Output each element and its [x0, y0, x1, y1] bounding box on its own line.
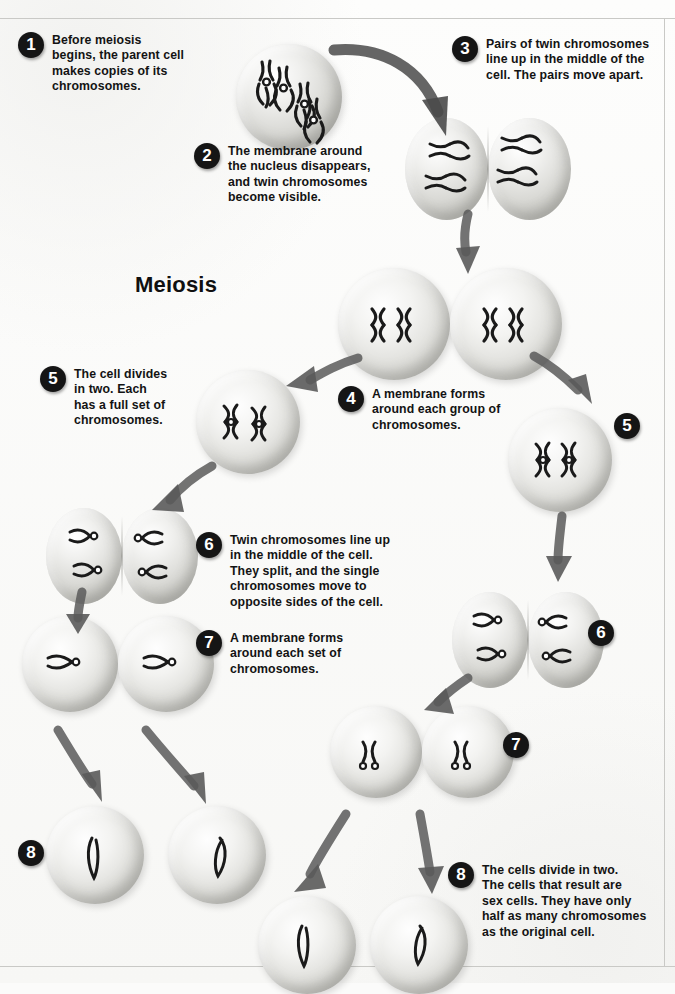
- page-rule-top: [0, 18, 675, 19]
- step-caption-5: The cell divides in two. Each has a full…: [74, 367, 204, 429]
- chromosome-group-stage6-left: [66, 522, 184, 592]
- stage-marker-6-right: 6: [588, 620, 614, 646]
- flow-arrow-5to6-left: [150, 462, 220, 520]
- chromosome-group-stage4-left: [368, 305, 424, 345]
- chromosome-stage8-d: [404, 924, 434, 970]
- stage-marker-8-left: 8: [18, 840, 44, 866]
- chromosome-group-stage4-right: [480, 305, 536, 345]
- step-badge-7: 7: [196, 630, 222, 656]
- step-badge-5: 5: [40, 366, 66, 392]
- chromosome-group-stage5-left: [220, 400, 278, 444]
- step-badge-2: 2: [194, 143, 220, 169]
- step-caption-6: Twin chromosomes line up in the middle o…: [230, 533, 420, 610]
- step-caption-3: Pairs of twin chromosomes line up in the…: [486, 37, 671, 83]
- step-badge-3: 3: [452, 36, 478, 62]
- chromosome-group-stage7-left-b: [140, 650, 194, 684]
- flow-arrow-5to6-right: [540, 514, 586, 586]
- flow-arrow-7to8-a: [52, 726, 112, 808]
- chromosome-group-stage7-right-a: [358, 738, 398, 772]
- step-caption-8: The cells divide in two. The cells that …: [482, 863, 667, 940]
- page-rule-right: [664, 18, 665, 966]
- flow-arrow-1to3: [330, 40, 460, 150]
- chromosome-stage8-a: [82, 836, 112, 882]
- flow-arrow-7to8-b: [136, 726, 216, 808]
- chromosome-group-stage1: [254, 58, 330, 136]
- chromosome-stage8-c: [292, 924, 322, 970]
- chromosome-group-stage7-left-a: [44, 650, 98, 684]
- flow-arrow-6to7-right: [420, 676, 480, 724]
- flow-arrow-3to4: [452, 212, 492, 278]
- step-badge-4: 4: [338, 386, 364, 412]
- diagram-title: Meiosis: [135, 272, 217, 298]
- step-caption-1: Before meiosis begins, the parent cell m…: [52, 33, 222, 95]
- flow-arrow-7to8-d: [406, 810, 456, 898]
- stage-marker-7-right: 7: [503, 732, 529, 758]
- step-caption-2: The membrane around the nucleus disappea…: [228, 144, 408, 206]
- chromosome-group-stage7-right-b: [450, 738, 490, 772]
- step-badge-1: 1: [18, 32, 44, 58]
- stage-marker-5-right: 5: [614, 413, 640, 439]
- step-caption-7: A membrane forms around each set of chro…: [230, 631, 405, 677]
- chromosome-stage8-b: [204, 836, 234, 882]
- chromosome-group-stage5-right: [532, 438, 590, 482]
- chromosome-group-stage6-right: [470, 606, 588, 676]
- flow-arrow-6to7-left: [62, 590, 108, 638]
- flow-arrow-7to8-c: [286, 810, 356, 898]
- step-caption-4: A membrane forms around each group of ch…: [372, 387, 547, 433]
- step-badge-6: 6: [196, 532, 222, 558]
- step-badge-8: 8: [448, 862, 474, 888]
